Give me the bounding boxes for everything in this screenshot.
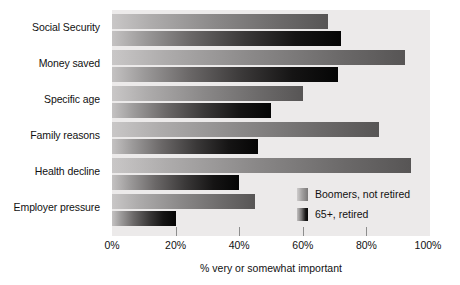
category-label-social-security: Social Security bbox=[0, 22, 100, 33]
x-tick-mark-20 bbox=[176, 227, 177, 236]
x-tick-mark-40 bbox=[239, 227, 240, 236]
category-label-family-reasons: Family reasons bbox=[0, 130, 100, 141]
x-axis-title: % very or somewhat important bbox=[112, 262, 430, 274]
bar-retired-employer-pressure bbox=[112, 211, 176, 226]
category-label-employer-pressure: Employer pressure bbox=[0, 202, 100, 213]
bar-boomers-family-reasons bbox=[112, 122, 379, 137]
x-tick-label-40: 40% bbox=[229, 239, 250, 251]
legend: Boomers, not retired 65+, retired bbox=[297, 186, 429, 226]
x-tick-label-20: 20% bbox=[165, 239, 186, 251]
x-tick-mark-60 bbox=[303, 227, 304, 236]
bar-retired-health-decline bbox=[112, 175, 239, 190]
x-tick-label-80: 80% bbox=[356, 239, 377, 251]
x-tick-mark-80 bbox=[366, 227, 367, 236]
x-axis-tick-labels: 0% 20% 40% 60% 80% 100% bbox=[112, 239, 430, 253]
legend-swatch-boomers-icon bbox=[297, 188, 308, 201]
category-axis-labels: Social Security Money saved Specific age… bbox=[0, 14, 106, 232]
x-tick-label-100: 100% bbox=[415, 239, 442, 251]
bar-boomers-specific-age bbox=[112, 86, 303, 101]
legend-item-boomers: Boomers, not retired bbox=[297, 186, 429, 202]
x-tick-label-60: 60% bbox=[292, 239, 313, 251]
legend-item-retired: 65+, retired bbox=[297, 206, 429, 222]
bar-boomers-social-security bbox=[112, 14, 328, 29]
category-label-health-decline: Health decline bbox=[0, 166, 100, 177]
horizontal-bar-chart: Social Security Money saved Specific age… bbox=[0, 0, 460, 285]
bar-boomers-employer-pressure bbox=[112, 194, 255, 209]
bar-retired-family-reasons bbox=[112, 139, 258, 154]
legend-label-retired: 65+, retired bbox=[315, 208, 368, 220]
category-label-money-saved: Money saved bbox=[0, 58, 100, 69]
legend-swatch-retired-icon bbox=[297, 208, 308, 221]
bar-retired-specific-age bbox=[112, 103, 271, 118]
category-label-specific-age: Specific age bbox=[0, 94, 100, 105]
bar-boomers-health-decline bbox=[112, 158, 411, 173]
legend-label-boomers: Boomers, not retired bbox=[315, 188, 410, 200]
bar-retired-social-security bbox=[112, 31, 341, 46]
bar-boomers-money-saved bbox=[112, 50, 405, 65]
x-tick-label-0: 0% bbox=[104, 239, 119, 251]
bar-retired-money-saved bbox=[112, 67, 338, 82]
